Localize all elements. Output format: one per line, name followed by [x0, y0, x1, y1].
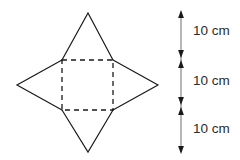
scale-label-segment-3: 10 cm — [193, 121, 230, 136]
geometry-diagram: 10 cm 10 cm 10 cm — [0, 0, 240, 160]
scale-label-segment-2: 10 cm — [193, 73, 230, 88]
scale-label-segment-1: 10 cm — [193, 23, 230, 38]
diagram-container: 10 cm 10 cm 10 cm — [0, 0, 240, 160]
